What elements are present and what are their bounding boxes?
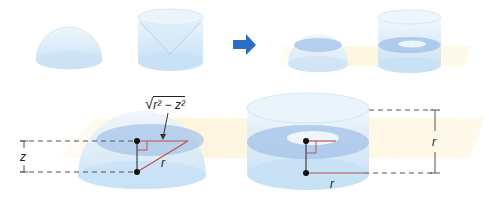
sqrt-symbol: √ (145, 95, 153, 112)
top-cylinder-sliced (378, 10, 441, 73)
z-label: z (20, 151, 26, 163)
radius-expression-label: √r² − z² (145, 95, 185, 112)
diagram-canvas (0, 0, 489, 204)
top-hemisphere-sliced (288, 34, 348, 72)
radius-r-label: r (330, 178, 334, 190)
right-arrow-icon (233, 34, 256, 55)
top-hemisphere (36, 27, 102, 69)
height-r-label: r (432, 136, 436, 148)
hypotenuse-r-label: r (161, 157, 165, 169)
top-cylinder-cone (138, 9, 203, 71)
radius-expression: r² − z² (153, 96, 185, 112)
